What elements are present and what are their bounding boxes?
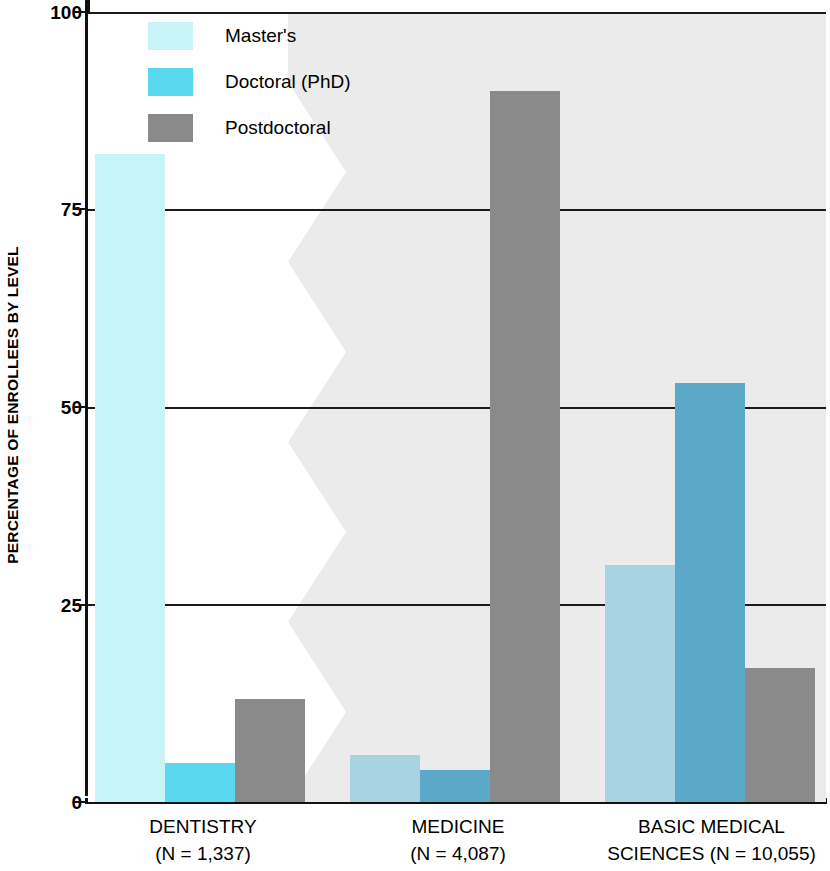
legend-label-postdoctoral: Postdoctoral (225, 117, 331, 139)
y-axis-title: PERCENTAGE OF ENROLLEES BY LEVEL (0, 0, 26, 810)
legend-swatch-masters-icon (148, 22, 193, 50)
gridline-100 (88, 12, 826, 14)
x-label-medicine: MEDICINE (N = 4,087) (343, 814, 573, 868)
legend-item-postdoctoral: Postdoctoral (148, 110, 408, 146)
y-axis-title-text: PERCENTAGE OF ENROLLEES BY LEVEL (4, 246, 22, 564)
legend-item-doctoral: Doctoral (PhD) (148, 64, 408, 100)
bar-basic-medical-sciences-postdoctoral (745, 668, 815, 802)
bar-dentistry-postdoctoral (235, 699, 305, 802)
x-label-basic-medical-sciences: BASIC MEDICAL SCIENCES (N = 10,055) (593, 814, 830, 868)
bar-medicine-postdoctoral (490, 91, 560, 802)
x-label-basic-medical-sciences-line1: BASIC MEDICAL (593, 814, 830, 841)
legend-swatch-postdoctoral-icon (148, 114, 193, 142)
legend-swatch-doctoral-icon (148, 68, 193, 96)
legend-label-masters: Master's (225, 25, 296, 47)
bar-basic-medical-sciences-doctoral (675, 383, 745, 802)
x-axis-category-labels: DENTISTRY (N = 1,337) MEDICINE (N = 4,08… (88, 808, 830, 871)
x-label-medicine-line1: MEDICINE (343, 814, 573, 841)
bar-medicine-doctoral (420, 770, 490, 802)
bar-dentistry-doctoral (165, 763, 235, 803)
bar-dentistry-masters (95, 154, 165, 802)
bar-medicine-masters (350, 755, 420, 802)
legend: Master's Doctoral (PhD) Postdoctoral (148, 18, 408, 156)
gridline-75 (88, 209, 826, 211)
x-label-dentistry-line1: DENTISTRY (88, 814, 318, 841)
legend-item-masters: Master's (148, 18, 408, 54)
x-label-basic-medical-sciences-line2: SCIENCES (N = 10,055) (593, 841, 830, 868)
y-axis-tick-labels: 100 75 50 25 0 (26, 0, 82, 871)
bar-basic-medical-sciences-masters (605, 565, 675, 802)
x-label-medicine-line2: (N = 4,087) (343, 841, 573, 868)
chart-container: PERCENTAGE OF ENROLLEES BY LEVEL 100 75 … (0, 0, 830, 871)
legend-label-doctoral: Doctoral (PhD) (225, 71, 351, 93)
x-label-dentistry: DENTISTRY (N = 1,337) (88, 814, 318, 868)
x-label-dentistry-line2: (N = 1,337) (88, 841, 318, 868)
